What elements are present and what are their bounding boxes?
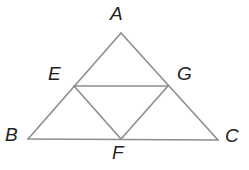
vertex-label-c: C <box>225 126 239 145</box>
vertex-label-f: F <box>112 143 124 162</box>
geometry-figure: A B C E G F <box>0 0 249 170</box>
vertex-label-a: A <box>110 4 123 23</box>
vertex-label-g: G <box>177 64 192 83</box>
vertex-label-e: E <box>48 64 61 83</box>
segment-ef <box>74 86 121 139</box>
segment-bc <box>28 139 218 140</box>
segment-gf <box>121 86 168 139</box>
vertex-label-b: B <box>5 125 18 144</box>
geometry-canvas <box>0 0 249 170</box>
